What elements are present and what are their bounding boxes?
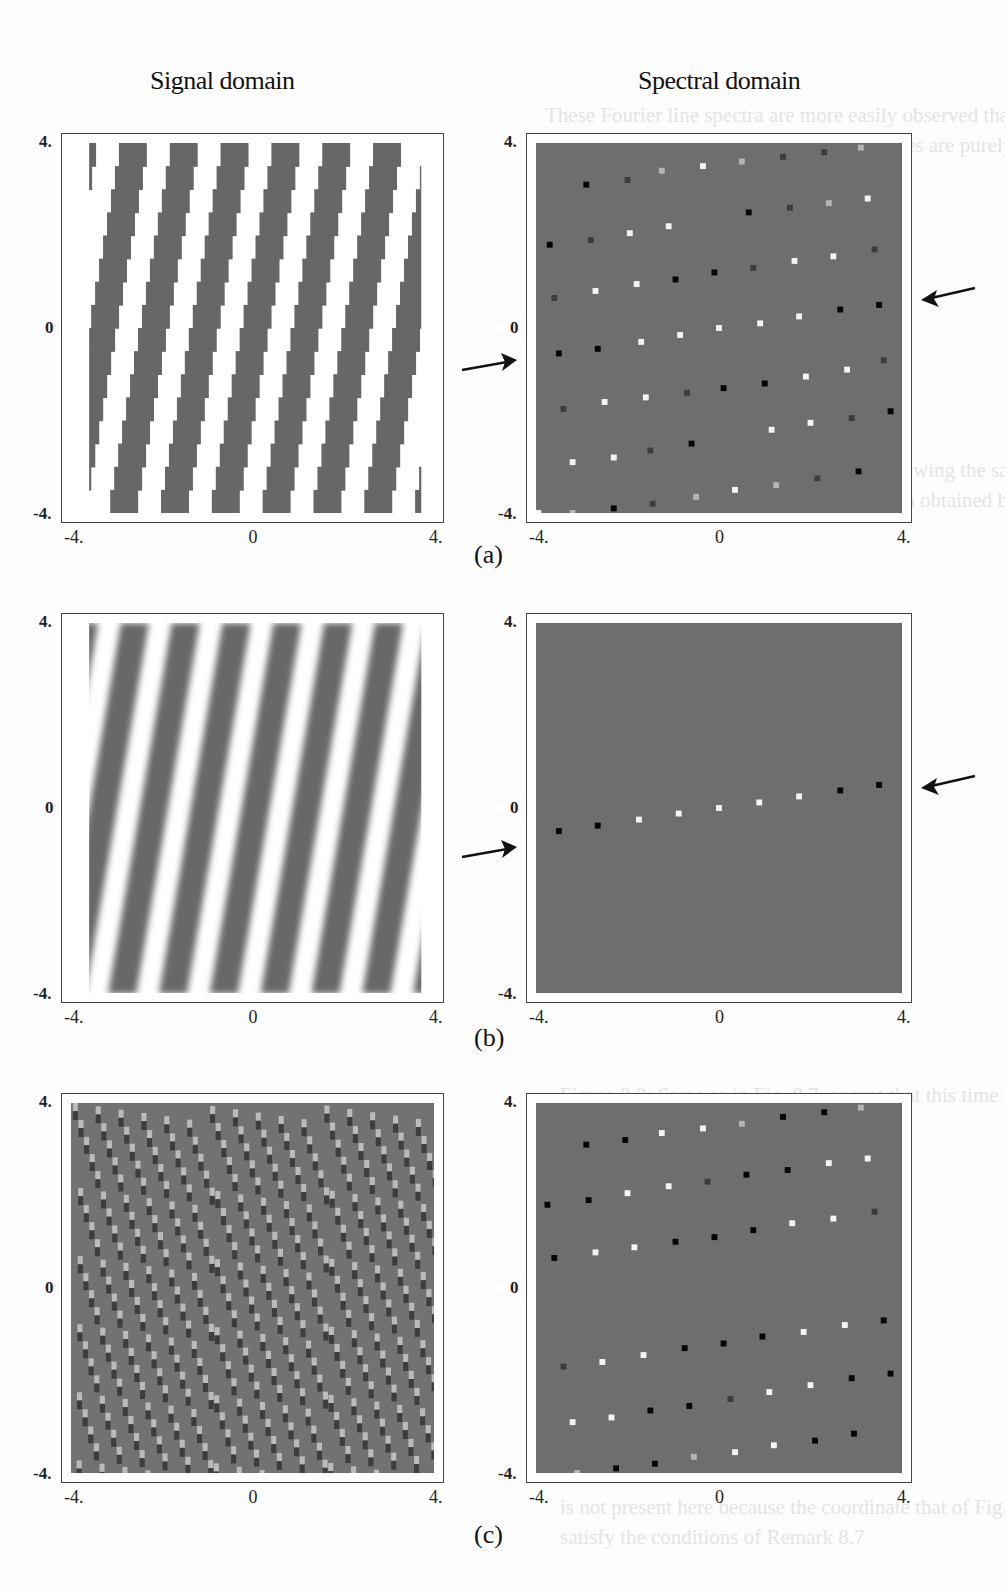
axis-tick-x_mid: 0 <box>715 1487 724 1508</box>
plot-graphic <box>71 1103 434 1473</box>
axis-tick-y_bottom: -4. <box>33 1464 51 1484</box>
axis-tick-y_bottom: -4. <box>498 1464 516 1484</box>
ghost-line: is not present here because the coordina… <box>560 1492 1005 1522</box>
signal-plot-c <box>61 1093 444 1483</box>
spectral-plot-a <box>526 133 912 523</box>
axis-tick-x_left: -4. <box>529 527 549 548</box>
axis-tick-x_mid: 0 <box>249 1487 258 1508</box>
axis-tick-y_bottom: -4. <box>498 504 516 524</box>
axis-tick-x_right: 4. <box>429 1487 443 1508</box>
spectral-plot-b-area <box>536 623 902 993</box>
axis-tick-x_mid: 0 <box>249 1007 258 1028</box>
signal-plot-a-area <box>71 143 434 513</box>
axis-tick-y_mid: 0 <box>510 318 519 338</box>
spectral-plot-c <box>526 1093 912 1483</box>
plot-graphic <box>71 623 434 993</box>
signal-plot-a <box>61 133 444 523</box>
axis-tick-y_top: 4. <box>504 132 517 152</box>
plot-graphic <box>536 143 902 513</box>
caption-c: (c) <box>474 1520 503 1550</box>
spectral-plot-b <box>526 613 912 1003</box>
arrow-left-icon <box>915 768 980 798</box>
ghost-line: These Fourier line spectra are more easi… <box>545 100 1005 130</box>
axis-tick-y_top: 4. <box>504 1092 517 1112</box>
signal-plot-c-area <box>71 1103 434 1473</box>
ghost-line: satisfy the conditions of Remark 8.7 <box>560 1522 864 1552</box>
plot-graphic <box>536 623 902 993</box>
spectral-plot-a-area <box>536 143 902 513</box>
signal-domain-heading: Signal domain <box>150 66 294 96</box>
axis-tick-y_bottom: -4. <box>33 984 51 1004</box>
axis-tick-y_mid: 0 <box>45 1278 54 1298</box>
axis-tick-y_top: 4. <box>39 132 52 152</box>
caption-a: (a) <box>474 540 503 570</box>
plot-graphic <box>71 143 434 513</box>
axis-tick-y_mid: 0 <box>45 318 54 338</box>
axis-tick-y_mid: 0 <box>510 798 519 818</box>
spectral-plot-c-area <box>536 1103 902 1473</box>
spectral-domain-heading: Spectral domain <box>638 66 800 96</box>
plot-graphic <box>536 1103 902 1473</box>
axis-tick-x_mid: 0 <box>715 527 724 548</box>
axis-tick-x_left: -4. <box>64 1487 84 1508</box>
arrow-left-icon <box>915 280 980 310</box>
axis-tick-y_top: 4. <box>39 1092 52 1112</box>
axis-tick-y_bottom: -4. <box>498 984 516 1004</box>
axis-tick-x_mid: 0 <box>715 1007 724 1028</box>
axis-tick-y_mid: 0 <box>45 798 54 818</box>
axis-tick-y_bottom: -4. <box>33 504 51 524</box>
axis-tick-y_mid: 0 <box>510 1278 519 1298</box>
axis-tick-x_left: -4. <box>529 1487 549 1508</box>
axis-tick-x_right: 4. <box>897 527 911 548</box>
axis-tick-x_mid: 0 <box>249 527 258 548</box>
signal-plot-b-area <box>71 623 434 993</box>
axis-tick-x_right: 4. <box>897 1007 911 1028</box>
caption-b: (b) <box>474 1023 504 1053</box>
axis-tick-y_top: 4. <box>39 612 52 632</box>
arrow-right-icon <box>455 832 525 867</box>
axis-tick-x_left: -4. <box>64 527 84 548</box>
arrow-right-icon <box>455 345 525 380</box>
axis-tick-x_right: 4. <box>429 1007 443 1028</box>
axis-tick-x_right: 4. <box>897 1487 911 1508</box>
axis-tick-y_top: 4. <box>504 612 517 632</box>
signal-plot-b <box>61 613 444 1003</box>
axis-tick-x_right: 4. <box>429 527 443 548</box>
axis-tick-x_left: -4. <box>64 1007 84 1028</box>
axis-tick-x_left: -4. <box>529 1007 549 1028</box>
